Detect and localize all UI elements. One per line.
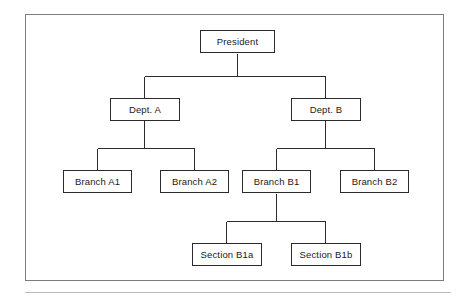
- figure-frame: [25, 14, 444, 281]
- node-dept-a-label: Dept. A: [129, 104, 161, 114]
- node-section-b1b-label: Section B1b: [300, 249, 353, 259]
- footer-rule: [25, 292, 451, 293]
- node-branch-b2-label: Branch B2: [352, 176, 398, 186]
- node-section-b1a[interactable]: Section B1a: [192, 243, 262, 266]
- node-branch-a2[interactable]: Branch A2: [160, 170, 229, 193]
- node-branch-b2[interactable]: Branch B2: [340, 170, 409, 193]
- node-president[interactable]: President: [200, 30, 275, 53]
- node-dept-b[interactable]: Dept. B: [291, 98, 361, 121]
- node-branch-b1-label: Branch B1: [254, 176, 300, 186]
- node-branch-a2-label: Branch A2: [172, 176, 217, 186]
- node-dept-b-label: Dept. B: [310, 104, 343, 114]
- org-chart-canvas: President Dept. A Dept. B Branch A1 Bran…: [0, 0, 465, 298]
- node-section-b1a-label: Section B1a: [201, 249, 254, 259]
- node-branch-a1-label: Branch A1: [75, 176, 120, 186]
- node-branch-b1[interactable]: Branch B1: [242, 170, 311, 193]
- node-branch-a1[interactable]: Branch A1: [63, 170, 132, 193]
- node-dept-a[interactable]: Dept. A: [110, 98, 180, 121]
- node-president-label: President: [217, 36, 258, 46]
- node-section-b1b[interactable]: Section B1b: [291, 243, 361, 266]
